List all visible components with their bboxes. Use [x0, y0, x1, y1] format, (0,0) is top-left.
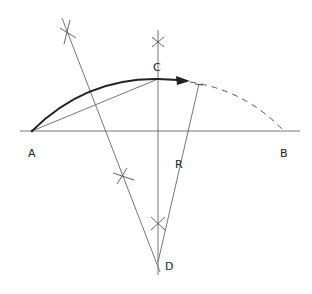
label-a: A [28, 147, 36, 160]
label-c: C [153, 61, 161, 74]
construction-diagram: A B C D R [0, 0, 312, 294]
dashed-arc [190, 82, 284, 131]
radius-line [158, 84, 199, 262]
cross-mark-mid-bisector [113, 168, 134, 184]
chord-ac [32, 79, 158, 131]
label-b: B [280, 147, 288, 160]
cross-mark-top-left [60, 20, 76, 44]
solid-arc [32, 79, 178, 131]
label-r: R [175, 158, 183, 171]
point-a-marker [31, 130, 34, 133]
arrow-head [176, 76, 190, 85]
label-d: D [165, 260, 173, 273]
bisector-line [62, 18, 160, 272]
